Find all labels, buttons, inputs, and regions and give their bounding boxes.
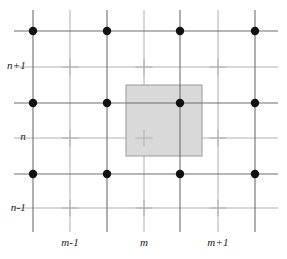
y-axis-label-0: n+1 [0,60,26,71]
x-axis-label-1: m [114,237,174,248]
x-axis-label-2: m+1 [188,237,248,248]
node-m2-n [251,99,259,107]
node-m1-n-1 [176,27,184,35]
node-m-n-1 [103,27,111,35]
control-volume-group [126,85,202,156]
staggered-grid-figure: n+1nn-1m-1mm+1 [0,0,287,259]
grid-canvas [0,0,287,259]
node-m1-n [176,99,184,107]
node-m-nm1 [103,170,111,178]
node-m1-nm1 [176,170,184,178]
node-m-1-n [29,99,37,107]
node-m2-nm1 [251,170,259,178]
node-m-1-nm1 [29,170,37,178]
y-axis-label-2: n-1 [0,202,26,213]
y-axis-label-1: n [0,131,26,142]
node-m2-n-1 [251,27,259,35]
x-axis-label-0: m-1 [40,237,100,248]
control-volume [126,85,202,156]
node-m-1-n-1 [29,27,37,35]
node-m-n [103,99,111,107]
